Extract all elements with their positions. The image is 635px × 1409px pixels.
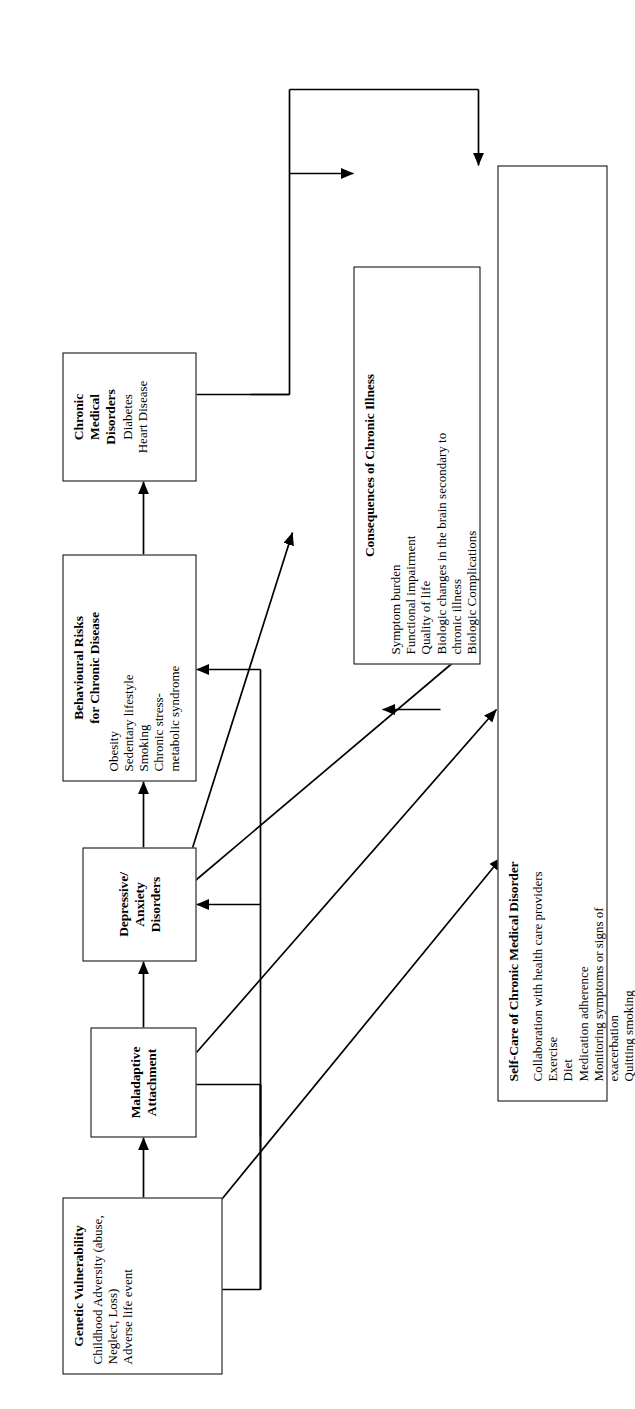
list-item: Chronic stress- — [150, 564, 165, 771]
list-item: Obesity — [105, 564, 120, 771]
list-item: exacerbation — [605, 175, 620, 1081]
list-item: Sedentary lifestyle — [120, 564, 135, 771]
node-behavioural-risks[interactable]: Behavioural Risks for Chronic Disease Ob… — [62, 554, 196, 781]
list-item: Exercise — [544, 175, 559, 1081]
list-item: metabolic syndrome — [166, 564, 181, 771]
node-depressive-anxiety-disorders[interactable]: Depressive/ Anxiety Disorders — [82, 847, 196, 961]
list-item: Quitting smoking — [620, 175, 635, 1081]
node-genetic-vulnerability[interactable]: Genetic Vulnerability Childhood Adversit… — [62, 1197, 222, 1374]
list-item: Adverse life event — [119, 1207, 134, 1364]
node-consequences-of-chronic-illness[interactable]: Consequences of Chronic Illness Symptom … — [353, 266, 480, 664]
depressive-anxiety-title-line1: Depressive/ — [115, 872, 131, 937]
list-item: chronic illness — [448, 276, 463, 654]
genetic-vulnerability-title: Genetic Vulnerability — [70, 1207, 86, 1364]
list-item: Monitoring symptoms or signs of — [590, 175, 605, 1081]
list-item: Medication adherence — [575, 175, 590, 1081]
list-item: Collaboration with health care providers — [529, 175, 544, 1081]
list-item: Biologic Complications — [463, 276, 478, 654]
list-item: Quality of life — [417, 276, 432, 654]
maladaptive-attachment-title-line2: Attachment — [143, 1046, 159, 1118]
self-care-title: Self-Care of Chronic Medical Disorder — [505, 175, 521, 1081]
node-chronic-medical-disorders[interactable]: Chronic Medical Disorders Diabetes Heart… — [62, 352, 196, 481]
chronic-medical-disorders-title-line1: Chronic — [70, 362, 86, 471]
edge-depressive-consequences — [182, 532, 292, 879]
node-self-care-of-chronic-medical-disorder[interactable]: Self-Care of Chronic Medical Disorder Co… — [497, 165, 607, 1101]
genetic-vulnerability-items: Childhood Adversity (abuse, Neglect, Los… — [89, 1207, 135, 1364]
edge-depressive-to-selfcare — [189, 649, 468, 885]
list-item: Smoking — [135, 564, 150, 771]
edge-genetic-to-selfcare — [217, 857, 501, 1204]
behavioural-risks-items: Obesity Sedentary lifestyle Smoking Chro… — [105, 564, 181, 771]
list-item: Diabetes — [119, 362, 134, 471]
behavioural-risks-title-line1: Behavioural Risks — [70, 564, 86, 771]
chronic-medical-disorders-items: Diabetes Heart Disease — [119, 362, 149, 471]
list-item: Functional impairment — [402, 276, 417, 654]
chronic-medical-disorders-title-line2: Medical — [86, 362, 102, 471]
consequences-title: Consequences of Chronic Illness — [361, 276, 377, 654]
chronic-medical-disorders-title-line3: Disorders — [102, 362, 118, 471]
behavioural-risks-title: Behavioural Risks for Chronic Disease — [70, 564, 102, 771]
list-item: Biologic changes in the brain secondary … — [433, 276, 448, 654]
list-item: Heart Disease — [134, 362, 149, 471]
list-item: Symptom burden — [387, 276, 402, 654]
edge-maladaptive-to-selfcare — [196, 709, 496, 1052]
chronic-medical-disorders-title: Chronic Medical Disorders — [70, 362, 118, 471]
consequences-items: Symptom burden Functional impairment Qua… — [387, 276, 478, 654]
list-item: Childhood Adversity (abuse, Neglect, Los… — [89, 1207, 119, 1364]
maladaptive-attachment-title: Maladaptive Attachment — [127, 1046, 159, 1118]
depressive-anxiety-title-line3: Disorders — [147, 872, 163, 937]
depressive-anxiety-title-line2: Anxiety — [131, 872, 147, 937]
node-maladaptive-attachment[interactable]: Maladaptive Attachment — [90, 1027, 196, 1137]
self-care-items: Collaboration with health care providers… — [529, 175, 635, 1081]
maladaptive-attachment-title-line1: Maladaptive — [127, 1046, 143, 1118]
list-item: Diet — [559, 175, 574, 1081]
behavioural-risks-title-line2: for Chronic Disease — [86, 564, 102, 771]
depressive-anxiety-title: Depressive/ Anxiety Disorders — [115, 872, 163, 937]
